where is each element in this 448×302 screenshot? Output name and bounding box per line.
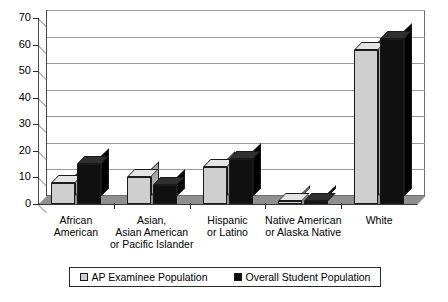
legend-swatch xyxy=(234,273,242,281)
legend-item: Overall Student Population xyxy=(234,272,371,283)
category-tick xyxy=(114,203,115,209)
plot-area: 706050403020100 xyxy=(0,0,448,215)
category-label-line: or Alaska Native xyxy=(257,226,349,238)
bar-front-face xyxy=(380,39,404,204)
bar xyxy=(77,164,101,204)
legend-label: AP Examinee Population xyxy=(92,272,208,283)
category-tick xyxy=(190,203,191,209)
bar xyxy=(304,201,328,204)
bars-layer xyxy=(0,0,448,215)
category-tick xyxy=(265,203,266,209)
bar-side-face xyxy=(404,24,412,196)
legend-label: Overall Student Population xyxy=(246,272,371,283)
bar-front-face xyxy=(304,201,328,204)
bar xyxy=(51,183,75,204)
bar-front-face xyxy=(127,177,151,204)
bar xyxy=(229,159,253,204)
bar xyxy=(127,177,151,204)
bar xyxy=(380,39,404,204)
bar-front-face xyxy=(278,201,302,204)
category-label: White xyxy=(333,214,425,226)
legend-swatch xyxy=(80,273,88,281)
bar xyxy=(203,167,227,204)
bar-front-face xyxy=(51,183,75,204)
legend-item: AP Examinee Population xyxy=(80,272,208,283)
chart-legend: AP Examinee PopulationOverall Student Po… xyxy=(69,267,381,287)
bar-chart: 706050403020100 AfricanAmericanAsian,Asi… xyxy=(0,0,448,302)
category-axis-labels: AfricanAmericanAsian,Asian Americanor Pa… xyxy=(0,214,448,262)
bar-front-face xyxy=(229,159,253,204)
bar-front-face xyxy=(153,185,177,204)
category-tick xyxy=(341,203,342,209)
category-label-line: or Pacific Islander xyxy=(106,238,198,250)
bar xyxy=(153,185,177,204)
bar-front-face xyxy=(203,167,227,204)
bar xyxy=(278,201,302,204)
category-label-line: White xyxy=(333,214,425,226)
bar-front-face xyxy=(77,164,101,204)
bar-top-face xyxy=(304,193,336,201)
bar xyxy=(354,50,378,204)
bar-front-face xyxy=(354,50,378,204)
